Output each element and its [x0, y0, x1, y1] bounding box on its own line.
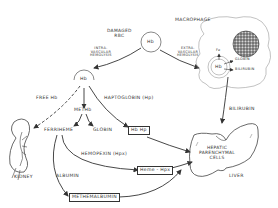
hepatic-parenchymal-cells-label: HEPATIC PARENCHYMAL CELLS	[199, 146, 235, 161]
damaged-rbc-label: DAMAGED RBC	[107, 29, 132, 39]
hemoglobin-catabolism-diagram: DAMAGED RBC Hb Hb INTRA- VASCULAR HEMOLY…	[0, 0, 278, 208]
haptoglobin-label: HAPTOGLOBIN (Hp)	[104, 96, 154, 101]
fe-label: Fe	[216, 49, 220, 53]
extravascular-line3: HEMOLYSIS	[177, 53, 199, 57]
methemalbumin-box: METHEMALBUMIN	[69, 193, 120, 202]
macrophage-bilirubin-label: BILIRUBIN	[235, 68, 255, 72]
methb-label: METHb	[74, 108, 92, 113]
extravascular-hemolysis-label: EXTRA- VASCULAR HEMOLYSIS	[177, 47, 199, 58]
intravascular-hemolysis-label: INTRA- VASCULAR HEMOLYSIS	[90, 47, 112, 58]
ferriheme-label: FERRIHEME	[44, 128, 73, 133]
hb-hp-box: Hb Hp	[128, 126, 150, 135]
macrophage-outline	[196, 17, 271, 89]
macrophage-nucleus	[233, 31, 259, 57]
macrophage-globin-label: GLOBIN	[235, 58, 250, 62]
hb-left-label: Hb	[80, 77, 87, 82]
kidney-outline	[10, 119, 30, 172]
hepatic-line3: CELLS	[210, 155, 225, 160]
damaged-rbc-line2: RBC	[114, 33, 124, 38]
intravascular-line3: HEMOLYSIS	[90, 53, 112, 57]
macrophage-label: MACROPHAGE	[175, 18, 211, 23]
hemopexin-label: HEMOPEXIN (Hpx)	[81, 152, 127, 157]
liver-label: LIVER	[229, 174, 244, 179]
heme-hpx-box: Heme - Hpx	[137, 166, 173, 175]
free-hb-label: FREE Hb	[36, 96, 58, 101]
bilirubin-label: BILIRUBIN	[229, 107, 255, 112]
macrophage-hb-label: Hb	[215, 65, 222, 70]
albumin-label: ALBUMIN	[56, 174, 79, 179]
hb-top-label: Hb	[147, 40, 154, 45]
kidney-label: KIDNEY	[14, 175, 33, 180]
globin-label: GLOBIN	[93, 128, 112, 133]
